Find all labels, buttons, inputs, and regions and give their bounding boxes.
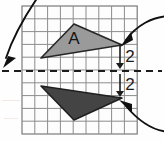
paper-artifact-0 [2,100,20,101]
pointer-to-mirror-line-arrowhead [3,56,16,68]
distance-below-value: 2 [125,75,134,94]
reflection-diagram: A22 [0,0,164,141]
distance-above-value: 2 [125,47,134,66]
triangle-a-label: A [68,29,80,48]
paper-artifact-1 [4,118,18,119]
diagram-canvas: A22 [0,0,164,141]
